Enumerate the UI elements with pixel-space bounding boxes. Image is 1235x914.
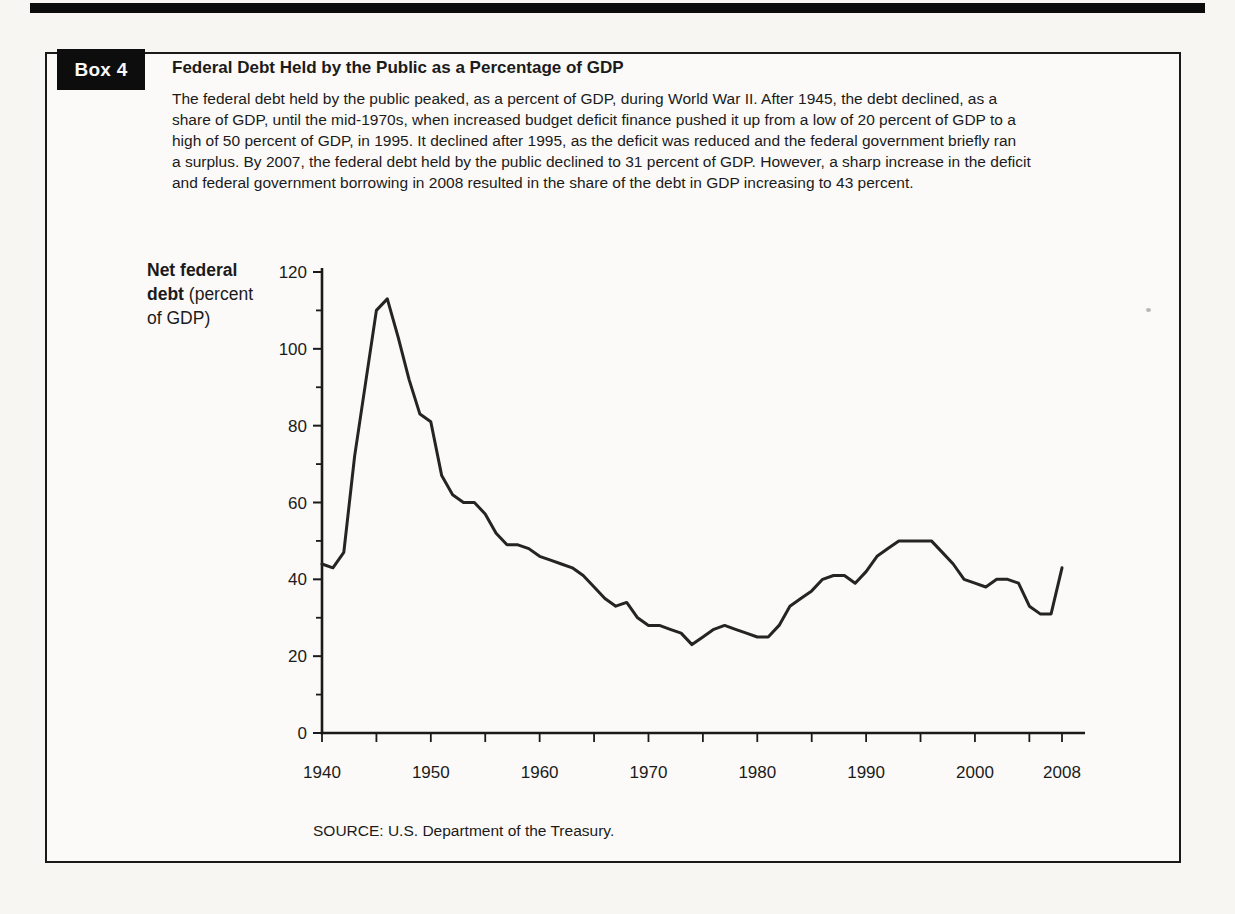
box-number-label: Box 4 (74, 59, 127, 81)
scanned-page: Box 4 Federal Debt Held by the Public as… (0, 0, 1235, 914)
x-tick-label: 1990 (847, 763, 885, 782)
x-tick-label: 1980 (738, 763, 776, 782)
x-tick-label: 1960 (521, 763, 559, 782)
y-tick-label: 0 (298, 724, 307, 743)
x-tick-label: 1950 (412, 763, 450, 782)
y-tick-label: 100 (279, 340, 307, 359)
x-tick-label: 1940 (303, 763, 341, 782)
chart-plot: 0204060801001201940195019601970198019902… (0, 0, 1235, 914)
x-tick-label: 2000 (956, 763, 994, 782)
box-number-badge: Box 4 (57, 49, 145, 90)
y-tick-label: 60 (288, 494, 307, 513)
debt-line (322, 299, 1062, 645)
y-tick-label: 40 (288, 570, 307, 589)
x-tick-label: 1970 (630, 763, 668, 782)
x-tick-label: 2008 (1043, 763, 1081, 782)
y-tick-label: 20 (288, 647, 307, 666)
y-tick-label: 80 (288, 417, 307, 436)
y-tick-label: 120 (279, 263, 307, 282)
source-note: SOURCE: U.S. Department of the Treasury. (313, 822, 614, 840)
